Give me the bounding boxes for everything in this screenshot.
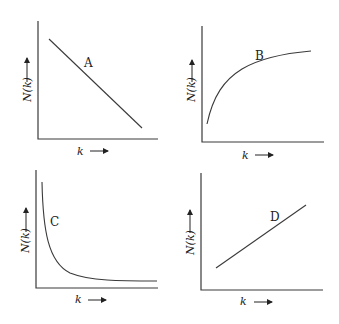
y-axis-label: N(k)	[184, 230, 197, 256]
x-axis-label: k	[77, 145, 84, 158]
y-axis	[201, 173, 323, 290]
y-axis	[36, 170, 158, 288]
y-axis-label: N(k)	[19, 228, 32, 254]
figure: A k N(k) B k N(k) C k N(k) D k N(k)	[0, 0, 339, 324]
curve-a	[49, 39, 142, 128]
y-axis	[38, 21, 158, 139]
panel-b: B k N(k)	[185, 26, 324, 162]
curve-c	[42, 182, 157, 281]
panel-a: A k N(k)	[21, 21, 158, 158]
x-axis-label: k	[242, 149, 249, 162]
x-axis-label: k	[75, 293, 82, 306]
curve-d	[216, 205, 306, 268]
y-axis	[202, 26, 324, 142]
curve-label-b: B	[255, 49, 264, 63]
x-axis-label: k	[240, 295, 247, 308]
panel-c: C k N(k)	[19, 170, 158, 306]
curve-label-c: C	[50, 215, 59, 229]
panel-d: D k N(k)	[184, 173, 323, 308]
curve-label-a: A	[83, 56, 93, 70]
curve-label-d: D	[270, 210, 280, 224]
